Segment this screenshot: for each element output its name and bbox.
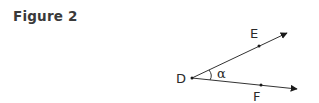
angle-arc	[209, 70, 211, 80]
ray-de	[192, 33, 287, 78]
ray-df	[192, 78, 297, 89]
point-e	[258, 45, 261, 48]
label-d: D	[176, 71, 186, 86]
label-alpha: α	[217, 66, 226, 81]
label-f: F	[253, 89, 260, 103]
point-d	[191, 77, 194, 80]
angle-diagram: D E F α	[0, 0, 319, 103]
point-f	[260, 84, 263, 87]
label-e: E	[250, 26, 258, 41]
